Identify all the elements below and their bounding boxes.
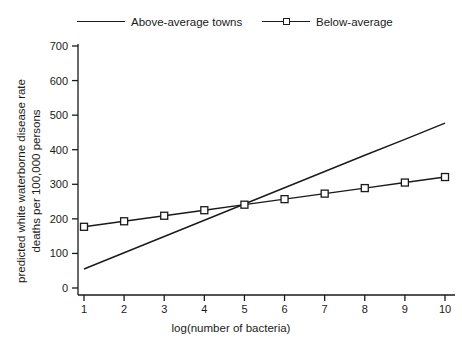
x-axis-tick-label: 1 <box>81 303 87 315</box>
data-point-marker <box>201 207 208 214</box>
data-point-marker <box>81 223 88 230</box>
data-series-group <box>81 123 449 269</box>
x-axis-tick-label: 2 <box>121 303 127 315</box>
x-axis-tick-label: 8 <box>362 303 368 315</box>
plot-area <box>0 0 462 346</box>
x-axis-tick-label: 5 <box>241 303 247 315</box>
chart-figure: Above-average towns Below-average 010020… <box>0 0 462 346</box>
x-axis-tick-label: 10 <box>439 303 451 315</box>
y-axis-tick-label: 700 <box>50 40 68 52</box>
data-point-marker <box>121 218 128 225</box>
data-point-marker <box>161 212 168 219</box>
y-axis-ticks <box>72 46 78 288</box>
axes <box>78 44 455 295</box>
x-axis-tick-label: 6 <box>281 303 287 315</box>
x-axis-tick-label: 7 <box>322 303 328 315</box>
y-axis-tick-label: 100 <box>50 247 68 259</box>
y-axis-tick-label: 300 <box>50 178 68 190</box>
data-point-marker <box>442 174 449 181</box>
x-axis-tick-label: 4 <box>201 303 207 315</box>
x-axis-ticks <box>84 295 445 301</box>
data-point-marker <box>241 201 248 208</box>
x-axis-tick-label: 9 <box>402 303 408 315</box>
y-axis-tick-label: 200 <box>50 213 68 225</box>
data-point-marker <box>361 185 368 192</box>
y-axis-title-line2: deaths per 100,000 persons <box>29 56 44 306</box>
x-axis-tick-label: 3 <box>161 303 167 315</box>
y-axis-tick-label: 500 <box>50 109 68 121</box>
series-line-0 <box>84 123 445 269</box>
data-point-marker <box>321 190 328 197</box>
data-point-marker <box>281 196 288 203</box>
y-axis-title: predicted white waterborne disease rate … <box>14 56 44 306</box>
data-point-marker <box>401 179 408 186</box>
y-axis-tick-label: 600 <box>50 75 68 87</box>
y-axis-title-line1: predicted white waterborne disease rate <box>14 56 29 306</box>
y-axis-tick-label: 400 <box>50 144 68 156</box>
series-line-1 <box>84 177 445 227</box>
x-axis-title: log(number of bacteria) <box>0 322 462 334</box>
y-axis-tick-label: 0 <box>62 282 68 294</box>
